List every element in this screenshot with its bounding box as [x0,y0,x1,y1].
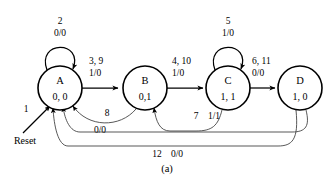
fsm-svg: 2 0/0 5 1/0 1 Reset 3, 9 1/0 4, 10 1/0 6… [0,0,335,181]
state-node-b[interactable] [123,66,167,110]
fsm-diagram-canvas: 2 0/0 5 1/0 1 Reset 3, 9 1/0 4, 10 1/0 6… [0,0,335,181]
state-b-output: 0,1 [139,91,152,102]
transition-c-to-b-condition: 1/1 [208,111,220,121]
state-node-a[interactable] [38,66,82,110]
transition-b-to-a-number: 8 [105,108,110,118]
state-c-output: 1, 1 [221,91,236,102]
state-d-name: D [296,75,304,86]
transition-b-to-c-number: 4, 10 [172,56,191,66]
transition-c-self-loop-condition: 1/0 [222,28,234,38]
state-b-name: B [141,75,148,86]
transition-a-self-loop-number: 2 [58,16,63,26]
transition-d-to-a-number: 12 [152,149,162,159]
state-a-output: 0, 0 [53,91,68,102]
transition-d-to-a-bottom-arc [53,108,297,146]
state-node-c[interactable] [206,66,250,110]
transition-d-to-a-condition: 0/0 [171,149,183,159]
figure-caption: (a) [161,163,173,175]
state-d-output: 1, 0 [293,91,308,102]
transition-b-to-a-condition: 0/0 [94,125,106,135]
transition-c-to-d-number: 6, 11 [252,56,271,66]
transition-c-to-b-number: 7 [194,111,199,121]
state-a-name: A [56,75,64,86]
transition-a-self-loop-condition: 0/0 [54,28,66,38]
transition-b-to-c-condition: 1/0 [172,68,184,78]
transition-a-to-b-condition: 1/0 [89,68,101,78]
transition-c-to-d-condition: 0/0 [252,68,264,78]
transition-c-self-loop-number: 5 [226,16,231,26]
reset-label: Reset [14,135,36,146]
state-c-name: C [224,75,231,86]
transition-a-to-b-number: 3, 9 [89,56,104,66]
reset-number: 1 [24,104,29,114]
state-node-d[interactable] [278,66,322,110]
